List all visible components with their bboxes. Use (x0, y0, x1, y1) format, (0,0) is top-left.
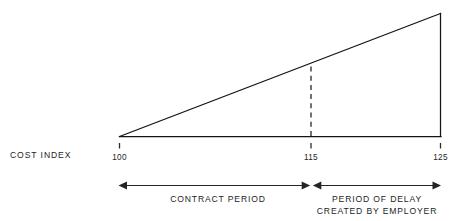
figure-canvas: 100 115 125 COST INDEX CONTRACT PERIOD P… (0, 0, 453, 221)
cost-index-axis-label: COST INDEX (10, 150, 71, 160)
delay-period-label-line2: CREATED BY EMPLOYER (317, 206, 437, 216)
delay-period-label-line1: PERIOD OF DELAY (332, 194, 422, 204)
cost-escalation-line (120, 14, 441, 137)
delay-period-arrow-head-right (433, 181, 442, 189)
contract-period-label: CONTRACT PERIOD (170, 194, 266, 204)
axis-tick-marks (120, 143, 441, 149)
tick-label-125: 125 (433, 153, 448, 162)
tick-label-115: 115 (304, 153, 318, 162)
tick-label-100: 100 (112, 153, 127, 162)
contract-period-arrow (119, 181, 311, 189)
contract-period-arrow-head-right (302, 181, 311, 189)
contract-period-arrow-head-left (119, 181, 128, 189)
cost-ramp-triangle (120, 14, 442, 137)
delay-period-arrow (313, 181, 441, 189)
delay-period-arrow-head-left (313, 181, 322, 189)
cost-escalation-diagram: 100 115 125 COST INDEX CONTRACT PERIOD P… (0, 0, 453, 221)
